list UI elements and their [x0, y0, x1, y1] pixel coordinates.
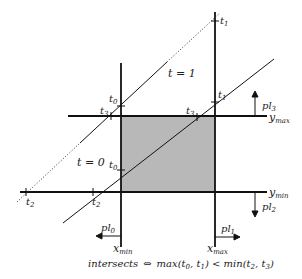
pl1-arrow-icon [215, 234, 240, 240]
y-min-label: ymin [268, 186, 289, 200]
y-max-label: ymax [268, 111, 290, 125]
line-a-dotted-end [167, 13, 220, 62]
line-a-t1-label: t1 [220, 15, 229, 28]
clipping-diagram: t = 1 t = 0 t2 t3 t0 t1 t2 t0 t3 t1 ymax… [0, 0, 302, 279]
line-b-t1-label: t1 [218, 89, 227, 102]
line-b-t2-label: t2 [92, 196, 101, 209]
pl0-label: pl0 [101, 222, 116, 235]
intersection-formula: intersects⇔max(t0, t1) < min(t2, t3) [88, 258, 274, 271]
clip-rectangle [121, 116, 215, 192]
x-min-label: xmin [113, 242, 133, 256]
pl0-arrow-icon [96, 233, 121, 239]
x-max-label: xmax [207, 242, 228, 256]
pl3-arrow-icon [252, 91, 258, 116]
pl1-label: pl1 [221, 223, 235, 236]
line-a-t0-label: t0 [109, 93, 118, 106]
t-equals-1-label: t = 1 [168, 67, 196, 80]
t-equals-0-label: t = 0 [77, 156, 105, 169]
line-a-t2-label: t2 [26, 196, 35, 209]
line-b-t0-label: t0 [109, 159, 118, 172]
pl2-arrow-icon [252, 192, 258, 217]
pl2-label: pl2 [262, 201, 277, 214]
